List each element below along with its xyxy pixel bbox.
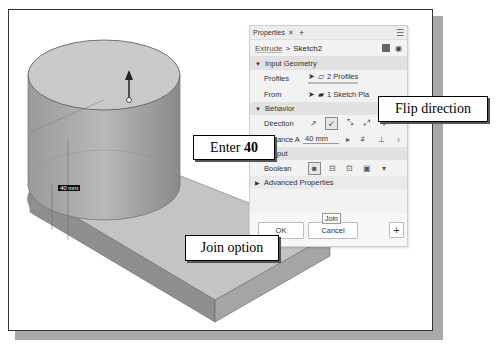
callout-join-option: Join option: [185, 235, 279, 261]
direction-label: Direction: [264, 119, 308, 128]
distance-extent-icon[interactable]: ≢: [359, 134, 370, 145]
join-tooltip: Join: [322, 213, 341, 224]
cut-icon[interactable]: ⊟: [327, 163, 338, 174]
flip-direction-icon[interactable]: ↙: [325, 117, 338, 130]
from-selector[interactable]: ➤ ▰ 1 Sketch Pla: [308, 90, 369, 99]
cancel-button[interactable]: Cancel: [308, 222, 358, 239]
section-title: Advanced Properties: [264, 178, 334, 187]
to-icon[interactable]: ⊥: [376, 134, 387, 145]
close-icon[interactable]: ✕: [288, 29, 294, 37]
join-icon[interactable]: ■: [308, 162, 321, 175]
cursor-icon: ➤: [308, 72, 315, 81]
profiles-row: Profiles ➤ ▱ 2 Profiles: [250, 70, 407, 86]
cube-icon[interactable]: [382, 44, 390, 52]
boolean-row: Boolean ■ ⊟ ⊡ ▣ ▾: [250, 160, 407, 176]
new-solid-icon[interactable]: ▣: [361, 163, 372, 174]
menu-icon[interactable]: ☰: [396, 28, 404, 38]
breadcrumb-separator: >: [286, 44, 291, 53]
panel-tabbar: Properties ✕ + ☰: [250, 26, 407, 40]
expand-triangle-icon: ▶: [255, 179, 260, 186]
profiles-selector[interactable]: ➤ ▱ 2 Profiles: [308, 72, 358, 84]
through-all-icon[interactable]: ♁: [393, 134, 404, 145]
intersect-icon[interactable]: ⊡: [344, 163, 355, 174]
eye-icon[interactable]: ◉: [395, 44, 402, 53]
distance-input[interactable]: 40 mm: [303, 134, 339, 144]
add-tab-icon[interactable]: +: [299, 28, 304, 38]
symmetric-icon[interactable]: ⤡: [344, 118, 355, 129]
dimension-label[interactable]: 40 mm: [58, 185, 80, 191]
callout-enter-text: Enter: [210, 140, 244, 156]
callout-enter-40: Enter 40: [193, 135, 275, 160]
collapse-triangle-icon: ▼: [255, 106, 261, 112]
asymmetric-icon[interactable]: ⤢: [361, 118, 372, 129]
profile-icon: ▱: [318, 72, 324, 81]
dropdown-icon[interactable]: ▾: [378, 163, 389, 174]
section-advanced[interactable]: ▶ Advanced Properties: [250, 176, 407, 189]
from-value: 1 Sketch Pla: [327, 90, 369, 99]
collapse-triangle-icon: ▼: [255, 61, 261, 67]
section-title: Input Geometry: [265, 59, 317, 68]
callout-flip-direction: Flip direction: [378, 96, 488, 122]
profiles-value: 2 Profiles: [327, 72, 358, 81]
callout-enter-value: 40: [244, 140, 258, 156]
breadcrumb-extrude[interactable]: Extrude: [255, 44, 283, 53]
from-label: From: [264, 90, 308, 99]
add-button[interactable]: +: [389, 222, 404, 238]
cursor-icon: ➤: [308, 90, 315, 99]
section-input-geometry[interactable]: ▼ Input Geometry: [250, 57, 407, 70]
plane-icon: ▰: [318, 90, 324, 99]
direction-default-icon[interactable]: ↗: [308, 118, 319, 129]
profiles-label: Profiles: [264, 74, 308, 83]
boolean-label: Boolean: [264, 164, 308, 173]
breadcrumb: Extrude > Sketch2 ◉: [250, 40, 407, 57]
dropdown-icon[interactable]: ▸: [342, 134, 353, 145]
section-title: Behavior: [265, 104, 295, 113]
breadcrumb-sketch: Sketch2: [293, 44, 322, 53]
tab-properties[interactable]: Properties: [253, 29, 285, 36]
